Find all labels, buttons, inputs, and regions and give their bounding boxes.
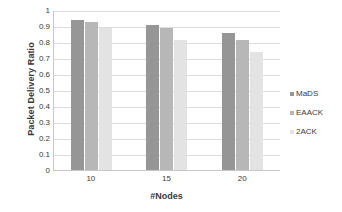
y-axis-tick-label: 1 (28, 7, 50, 15)
bar (160, 28, 173, 170)
x-axis-tick-labels: 101520 (53, 174, 280, 184)
legend-label: 2ACK (296, 127, 317, 136)
y-axis-tick-label: 0.7 (28, 55, 50, 63)
y-axis-tick-label: 0.4 (28, 103, 50, 111)
legend-swatch-icon (290, 92, 294, 96)
y-axis-tick-label: 0.2 (28, 135, 50, 143)
bar (146, 25, 159, 170)
legend-item: EAACK (290, 103, 342, 122)
y-axis-tick-label: 0.6 (28, 71, 50, 79)
y-axis-tick-labels: 10.90.80.70.60.50.40.30.20.10 (28, 11, 50, 171)
bar (250, 52, 263, 170)
legend-swatch-icon (290, 130, 294, 134)
bar (99, 28, 112, 170)
x-axis-title: #Nodes (53, 191, 280, 201)
legend-item: 2ACK (290, 122, 342, 141)
bar (222, 33, 235, 170)
y-axis-tick-label: 0.5 (28, 87, 50, 95)
legend-label: MaDS (296, 89, 318, 98)
y-axis-tick-label: 0.3 (28, 119, 50, 127)
bar (236, 40, 249, 170)
bar (85, 22, 98, 170)
y-axis-tick-label: 0.8 (28, 39, 50, 47)
bar (174, 40, 187, 170)
legend-label: EAACK (296, 108, 323, 117)
bar-chart: Packet Delivery Ratio 10.90.80.70.60.50.… (0, 0, 342, 212)
y-axis-tick-label: 0 (28, 167, 50, 175)
bar (71, 20, 84, 170)
y-axis-tick-label: 0.9 (28, 23, 50, 31)
x-axis-tick-label: 15 (136, 174, 196, 184)
legend: MaDSEAACK2ACK (290, 84, 342, 141)
y-axis-tick-label: 0.1 (28, 151, 50, 159)
bar-groups (54, 11, 280, 170)
legend-swatch-icon (290, 111, 294, 115)
x-axis-tick-label: 10 (61, 174, 121, 184)
bar-group (71, 11, 112, 170)
x-axis-tick-label: 20 (212, 174, 272, 184)
legend-item: MaDS (290, 84, 342, 103)
bar-group (146, 11, 187, 170)
plot-area (53, 11, 280, 171)
bar-group (222, 11, 263, 170)
